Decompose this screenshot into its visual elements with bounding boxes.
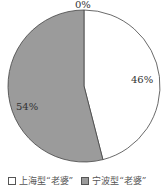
legend: 上海型“老婆” 宁波型“老婆” <box>8 174 162 187</box>
slice-label-ningbo: 54% <box>16 101 38 112</box>
legend-label-shanghai: 上海型“老婆” <box>19 174 73 187</box>
pie-chart <box>0 0 162 188</box>
slice-label-zero: 0% <box>75 0 91 10</box>
legend-swatch-ningbo <box>81 177 89 185</box>
slice-label-shanghai: 46% <box>131 74 153 85</box>
legend-swatch-shanghai <box>8 177 16 185</box>
legend-label-ningbo: 宁波型“老婆” <box>92 174 146 187</box>
legend-item-shanghai: 上海型“老婆” <box>8 174 73 187</box>
legend-item-ningbo: 宁波型“老婆” <box>81 174 146 187</box>
